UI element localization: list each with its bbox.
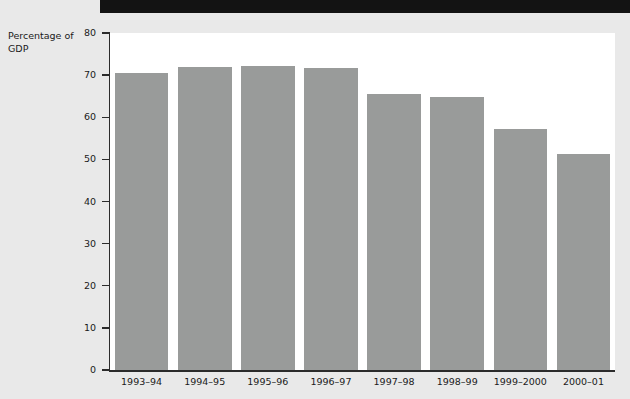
x-tick-label: 1998–99 — [426, 376, 489, 387]
x-axis-line — [109, 370, 615, 372]
bar — [430, 97, 484, 370]
x-tick-label: 1999–2000 — [489, 376, 552, 387]
y-axis-ticks: 01020304050607080 — [0, 0, 98, 399]
bar — [178, 67, 232, 370]
y-tick-mark — [102, 32, 110, 33]
x-tick-label: 1995–96 — [236, 376, 299, 387]
y-tick-mark — [102, 327, 110, 328]
y-tick-mark — [102, 243, 110, 244]
y-tick-mark — [102, 201, 110, 202]
bar — [494, 129, 548, 370]
x-tick-label: 2000–01 — [552, 376, 615, 387]
y-tick-mark — [102, 74, 110, 75]
y-tick-label: 60 — [0, 111, 96, 122]
y-tick-label: 0 — [0, 364, 96, 375]
y-tick-mark — [102, 117, 110, 118]
y-tick-label: 10 — [0, 322, 96, 333]
bar — [115, 73, 169, 370]
header-band — [100, 0, 630, 13]
bar — [557, 154, 611, 370]
y-tick-label: 40 — [0, 196, 96, 207]
bar-series — [110, 33, 615, 370]
x-tick-label: 1997–98 — [363, 376, 426, 387]
y-tick-label: 20 — [0, 280, 96, 291]
bar — [241, 66, 295, 370]
y-tick-label: 30 — [0, 238, 96, 249]
x-tick-label: 1996–97 — [299, 376, 362, 387]
y-tick-mark — [102, 159, 110, 160]
y-tick-label: 50 — [0, 153, 96, 164]
bar — [367, 94, 421, 370]
chart-page: Percentage of GDP 01020304050607080 1993… — [0, 0, 630, 399]
y-tick-label: 80 — [0, 27, 96, 38]
y-tick-label: 70 — [0, 69, 96, 80]
x-tick-label: 1994–95 — [173, 376, 236, 387]
y-tick-mark — [102, 369, 110, 370]
y-tick-mark — [102, 285, 110, 286]
bar — [304, 68, 358, 370]
x-tick-label: 1993–94 — [110, 376, 173, 387]
